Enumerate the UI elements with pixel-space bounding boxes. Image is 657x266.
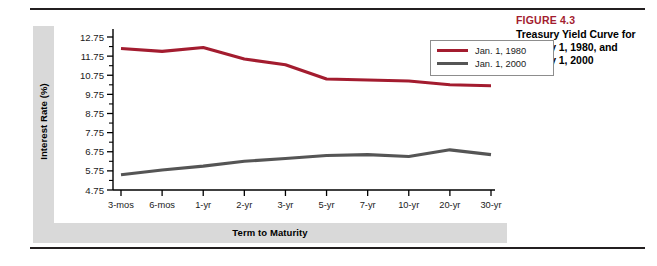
legend-item-series-1: Jan. 1, 2000 [437,57,526,70]
x-tick-label: 3-yr [277,200,293,210]
x-tick-label: 5-yr [319,200,335,210]
legend-label-1980: Jan. 1, 1980 [475,46,526,56]
y-tick-label: 12.75 [80,32,104,43]
y-tick-label: 8.75 [85,108,104,119]
legend-swatch-2000 [437,62,468,65]
legend-item-series-0: Jan. 1, 1980 [437,44,526,57]
x-tick-label: 1-yr [195,200,211,210]
x-tick-label: 30-yr [480,200,501,210]
y-tick-label: 9.75 [85,89,104,100]
figure-number-label: FIGURE 4.3 [516,14,651,27]
x-tick-label: 6-mos [149,200,175,210]
x-axis-title: Term to Maturity [33,227,507,238]
top-divider-rule [30,8,645,10]
y-tick-label: 11.75 [81,51,104,62]
chart-legend: Jan. 1, 1980 Jan. 1, 2000 [430,40,554,76]
y-tick-label: 5.75 [85,165,104,176]
x-tick-label: 2-yr [236,200,252,210]
figure-root: FIGURE 4.3 Treasury Yield Curve for Janu… [0,0,657,266]
bottom-divider-rule [30,247,645,249]
x-tick-label: 7-yr [360,200,376,210]
chart-panel: Interest Rate (%) Term to Maturity 4.755… [33,18,507,243]
y-tick-label: 7.75 [85,127,104,138]
y-tick-label: 10.75 [80,70,104,81]
y-axis-title-band: Interest Rate (%) [33,26,54,223]
legend-swatch-1980 [437,49,468,52]
plot-area: 4.755.756.757.758.759.7510.7511.7512.75 … [54,18,507,223]
x-tick-labels-group: 3-mos6-mos1-yr2-yr3-yr5-yr7-yr10-yr20-yr… [108,200,502,210]
y-tick-label: 4.75 [85,185,104,196]
y-tick-labels-group: 4.755.756.757.758.759.7510.7511.7512.75 [80,32,104,196]
x-tick-label: 10-yr [398,200,419,210]
legend-label-2000: Jan. 1, 2000 [475,59,526,69]
series-line-jan-1-2000 [121,150,491,175]
y-axis-title: Interest Rate (%) [38,38,49,205]
x-tick-label: 3-mos [108,200,134,210]
x-axis-title-band: Term to Maturity [33,223,507,243]
x-tick-label: 20-yr [439,200,460,210]
y-tick-label: 6.75 [85,146,104,157]
